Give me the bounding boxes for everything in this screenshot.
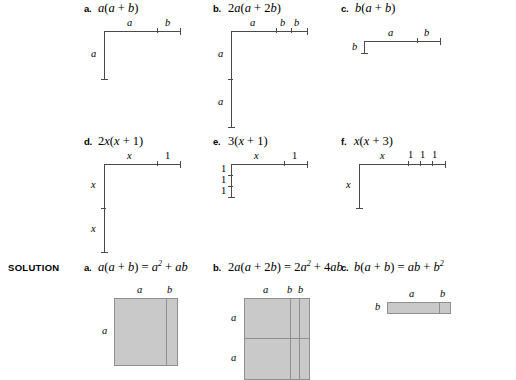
solution-b-area-rect [244, 298, 310, 380]
diagram-b-label-v-1: a [218, 96, 223, 107]
diagram-c-end-cap-horizontal [440, 38, 441, 45]
solution-b-divider-vertical-1 [290, 298, 291, 380]
diagram-e-end-cap-horizontal [307, 161, 308, 168]
diagram-f-label-h-2: 1 [420, 149, 425, 160]
diagram-f-label-v-0: x [346, 179, 351, 190]
diagram-f-label-h-1: 1 [408, 149, 413, 160]
problem-letter-e: e. [213, 136, 221, 147]
diagram-d-tick-1 [157, 161, 158, 166]
solution-c-divider-vertical [439, 302, 440, 314]
solution-b-label-h-1: b [287, 284, 292, 295]
solution-b-label-h-0: a [263, 284, 268, 295]
problem-letter-d: d. [84, 136, 92, 147]
diagram-f-label-h-0: x [380, 150, 385, 161]
solution-b-divider-vertical-2 [299, 298, 300, 380]
diagram-d-label-v-1: x [91, 223, 96, 234]
diagram-a-end-cap-vertical [101, 79, 108, 80]
diagram-a-label-h-0: a [127, 17, 132, 28]
diagram-d-label-h-0: x [127, 150, 132, 161]
diagram-c-tick-1 [417, 38, 418, 43]
diagram-b-label-h-1: b [280, 17, 285, 28]
diagram-a-label-v-0: a [91, 48, 96, 59]
solution-a-divider-vertical [166, 298, 167, 366]
diagram-e-label-h-1: 1 [292, 150, 297, 161]
diagram-a-label-h-1: b [165, 17, 170, 28]
solution-b-label-h-2: b [298, 284, 303, 295]
diagram-e-tick-v-1 [228, 175, 233, 176]
solution-equation-b: 2a(a + 2b) = 2a2 + 4ab [228, 259, 343, 275]
diagram-b: a b b a a [222, 22, 322, 130]
problem-letter-f: f. [341, 136, 346, 147]
diagram-f-tick-1 [408, 161, 409, 166]
solution-c-label-h-1: b [440, 288, 445, 299]
diagram-b-label-v-0: a [218, 48, 223, 59]
diagram-c-label-v-0: b [352, 41, 357, 52]
diagram-d-label-v-0: x [91, 179, 96, 190]
solution-equation-a: a(a + b) = a2 + ab [98, 259, 188, 275]
diagram-e: x 1 1 1 1 [222, 155, 322, 205]
problem-letter-b: b. [213, 3, 221, 14]
solution-letter-b: b. [213, 262, 221, 273]
diagram-f-label-h-3: 1 [432, 149, 437, 160]
problem-expression-a: a(a + b) [98, 1, 138, 16]
diagram-b-label-h-0: a [250, 17, 255, 28]
diagram-c-label-h-0: a [388, 27, 393, 38]
solution-diagram-b: a b b a a [222, 290, 342, 378]
diagram-c-label-h-1: b [424, 27, 429, 38]
problem-letter-c: c. [341, 3, 349, 14]
solution-c-label-h-0: a [409, 288, 414, 299]
diagram-f: x 1 1 1 x [350, 155, 460, 215]
diagram-d: x 1 x x [95, 155, 195, 255]
diagram-f-tick-2 [420, 161, 421, 166]
diagram-c: a b b [350, 32, 450, 62]
diagram-c-horizontal-axis [364, 41, 440, 42]
problem-letter-a: a. [84, 3, 92, 14]
diagram-f-end-cap-vertical [356, 208, 363, 209]
solution-b-divider-horizontal [244, 338, 310, 339]
solution-diagram-c: a b b [350, 290, 480, 330]
diagram-a-end-cap-horizontal [180, 28, 181, 35]
solution-equation-c: b(a + b) = ab + b2 [354, 259, 444, 275]
diagram-a: a b a [95, 22, 185, 80]
diagram-b-end-cap-horizontal [307, 28, 308, 35]
diagram-d-tick-v-1 [101, 208, 106, 209]
diagram-d-horizontal-axis [104, 164, 180, 165]
diagram-e-label-v-1: 1 [221, 174, 226, 185]
problem-expression-f: x(x + 3) [354, 134, 393, 149]
solution-a-area-rect [114, 298, 178, 366]
diagram-d-label-h-1: 1 [165, 150, 170, 161]
diagram-f-end-cap-horizontal [445, 161, 446, 168]
diagram-a-vertical-axis [104, 31, 105, 79]
problem-expression-d: 2x(x + 1) [98, 134, 143, 149]
diagram-e-label-v-2: 1 [221, 185, 226, 196]
diagram-c-end-cap-vertical [361, 53, 368, 54]
diagram-e-tick-1 [284, 161, 285, 166]
solution-label: SOLUTION [8, 262, 59, 273]
solution-b-label-v-1: a [231, 352, 236, 363]
diagram-e-horizontal-axis [231, 164, 307, 165]
problem-expression-c: b(a + b) [355, 1, 395, 16]
problem-expression-e: 3(x + 1) [228, 134, 268, 149]
diagram-d-end-cap-vertical [101, 252, 108, 253]
diagram-e-vertical-axis [231, 164, 232, 197]
diagram-f-vertical-axis [359, 164, 360, 208]
solution-a-label-h-0: a [137, 284, 142, 295]
diagram-b-tick-v-1 [228, 79, 233, 80]
solution-c-area-rect [387, 302, 451, 314]
diagram-a-horizontal-axis [104, 31, 180, 32]
diagram-b-horizontal-axis [231, 31, 307, 32]
diagram-b-tick-1 [276, 28, 277, 33]
diagram-e-tick-v-2 [228, 186, 233, 187]
diagram-e-label-h-0: x [254, 150, 259, 161]
solution-a-label-h-1: b [167, 284, 172, 295]
problem-expression-b: 2a(a + 2b) [228, 1, 281, 16]
solution-diagram-a: a b a [100, 290, 220, 378]
diagram-b-end-cap-vertical [228, 127, 235, 128]
diagram-c-vertical-axis [364, 41, 365, 53]
diagram-a-tick-1 [157, 28, 158, 33]
solution-letter-a: a. [84, 262, 92, 273]
diagram-d-end-cap-horizontal [180, 161, 181, 168]
diagram-e-end-cap-vertical [228, 197, 235, 198]
diagram-b-tick-2 [291, 28, 292, 33]
